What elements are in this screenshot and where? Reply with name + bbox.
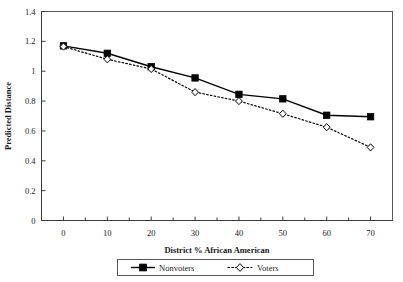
series-line-voters [63, 47, 370, 148]
x-tick-label: 30 [191, 228, 200, 238]
data-point-voters-50 [279, 110, 286, 117]
x-tick-label: 40 [235, 228, 244, 238]
x-axis-title: District % African American [164, 245, 269, 255]
series-nonvoters [60, 43, 374, 120]
chart-legend: Nonvoters Voters [118, 260, 314, 276]
y-tick-label: 1.2 [25, 36, 36, 46]
x-axis-ticks: 010203040506070 [61, 217, 375, 238]
y-tick-label: 0.4 [25, 156, 36, 166]
data-point-nonvoters-30 [192, 75, 198, 81]
data-point-voters-60 [323, 124, 330, 131]
predicted-distance-line-chart: 00.20.40.60.811.21.4 010203040506070 Pre… [0, 0, 403, 282]
data-point-voters-40 [236, 97, 243, 104]
legend-label-voters: Voters [257, 263, 279, 273]
y-tick-label: 1.4 [25, 7, 36, 17]
y-tick-label: 0 [31, 216, 35, 226]
legend-marker-diamond-icon [236, 264, 243, 272]
data-point-nonvoters-60 [323, 112, 329, 118]
x-tick-label: 70 [366, 228, 375, 238]
y-tick-label: 0.8 [25, 96, 36, 106]
y-tick-label: 0.6 [25, 126, 36, 136]
data-point-nonvoters-50 [280, 96, 286, 102]
data-point-nonvoters-70 [367, 114, 373, 120]
x-tick-label: 20 [147, 228, 156, 238]
x-tick-label: 50 [279, 228, 288, 238]
y-tick-label: 1 [31, 66, 35, 76]
x-tick-label: 10 [103, 228, 112, 238]
data-point-voters-70 [367, 144, 374, 151]
y-tick-label: 0.2 [25, 186, 36, 196]
legend-item-voters[interactable]: Voters [228, 263, 279, 273]
legend-marker-square-icon [140, 264, 147, 271]
data-point-nonvoters-40 [236, 91, 242, 97]
x-tick-label: 60 [322, 228, 331, 238]
y-axis-title: Predicted Distance [3, 82, 13, 150]
data-series-layer [60, 43, 374, 151]
x-tick-label: 0 [61, 228, 65, 238]
y-axis-ticks: 00.20.40.60.811.21.4 [25, 7, 46, 226]
legend-label-nonvoters: Nonvoters [159, 263, 194, 273]
data-point-voters-30 [192, 89, 199, 96]
legend-item-nonvoters[interactable]: Nonvoters [131, 263, 194, 273]
series-voters [60, 43, 374, 151]
chart-figure: 00.20.40.60.811.21.4 010203040506070 Pre… [0, 0, 403, 282]
